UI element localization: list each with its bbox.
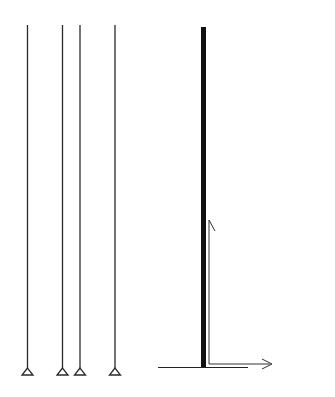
pin-supports <box>22 368 121 375</box>
structural-diagram <box>0 0 335 397</box>
multi-story-frame <box>28 25 116 368</box>
x-axis-arrow <box>209 220 215 364</box>
cantilever-column <box>201 27 206 367</box>
